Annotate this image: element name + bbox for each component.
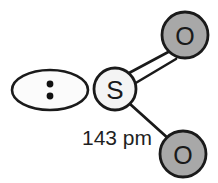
lone-pair-group [12, 70, 88, 110]
atom-oxygen-bottom: O [160, 131, 206, 177]
double-bond-line-lower [134, 59, 176, 84]
bond-length-label: 143 pm [82, 126, 152, 149]
sulfur-label: S [106, 75, 123, 105]
oxygen-top-label: O [175, 22, 194, 50]
double-bond-line-upper [129, 50, 172, 73]
atom-oxygen-top: O [162, 12, 208, 58]
so2-structure-diagram: O O S 143 pm [0, 0, 218, 183]
lone-pair-dot-top [47, 81, 54, 88]
lone-pair-ellipse [12, 70, 88, 110]
lone-pair-dot-bottom [47, 93, 54, 100]
oxygen-bottom-label: O [173, 141, 192, 169]
molecule-canvas: O O S 143 pm [0, 0, 218, 183]
atom-sulfur: S [94, 68, 136, 110]
double-bond-s-to-oxygen-top [129, 50, 176, 84]
